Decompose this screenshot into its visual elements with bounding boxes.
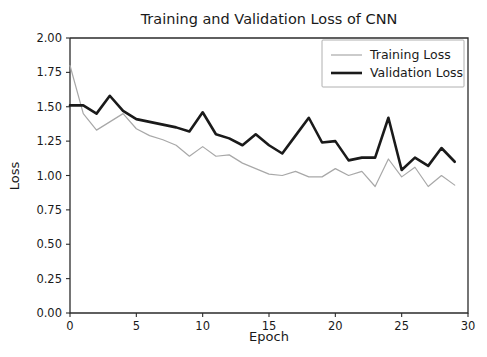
chart-figure: Training and Validation Loss of CNN 0.00… xyxy=(0,0,487,357)
y-tick-label: 1.75 xyxy=(36,65,62,79)
y-axis-title: Loss xyxy=(7,162,22,191)
legend-label-training-loss: Training Loss xyxy=(369,47,451,62)
x-tick-label: 20 xyxy=(328,319,343,333)
y-tick-label: 1.50 xyxy=(36,100,62,114)
chart-legend[interactable]: Training Loss Validation Loss xyxy=(322,40,464,87)
x-tick-label: 0 xyxy=(66,319,73,333)
y-tick-label: 1.00 xyxy=(36,169,62,183)
chart-title: Training and Validation Loss of CNN xyxy=(140,11,398,27)
y-tick-label: 0.50 xyxy=(36,237,62,251)
x-tick-label: 5 xyxy=(133,319,140,333)
y-tick-label: 0.75 xyxy=(36,203,62,217)
x-tick-label: 25 xyxy=(394,319,409,333)
x-tick-label: 10 xyxy=(195,319,210,333)
x-axis-title: Epoch xyxy=(249,329,289,344)
y-tick-label: 2.00 xyxy=(36,31,62,45)
loss-line-chart: Training and Validation Loss of CNN 0.00… xyxy=(0,0,487,357)
y-tick-label: 1.25 xyxy=(36,134,62,148)
legend-label-validation-loss: Validation Loss xyxy=(370,65,463,80)
x-tick-label: 30 xyxy=(461,319,476,333)
y-tick-label: 0.25 xyxy=(36,272,62,286)
y-tick-label: 0.00 xyxy=(36,306,62,320)
